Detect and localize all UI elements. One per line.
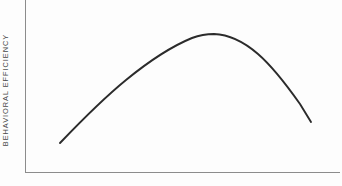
behavioral-efficiency-curve bbox=[60, 34, 311, 143]
figure-container: BEHAVIORAL EFFICIENCY bbox=[0, 0, 342, 186]
plot-canvas bbox=[0, 0, 342, 186]
